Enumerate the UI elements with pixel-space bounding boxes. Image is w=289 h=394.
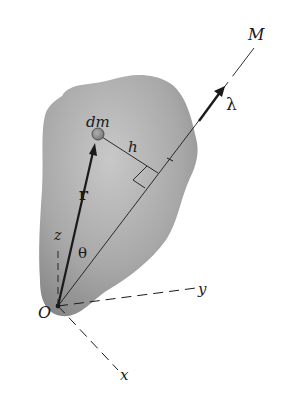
label-x: x — [120, 366, 129, 384]
label-theta: θ — [78, 244, 87, 262]
label-lambda: λ — [226, 94, 237, 114]
label-z: z — [53, 227, 62, 243]
origin-point — [56, 304, 61, 309]
label-y: y — [197, 280, 207, 298]
label-O: O — [38, 303, 51, 322]
inertia-diagram: M λ dm h r θ z y x O — [0, 0, 289, 394]
label-h: h — [128, 138, 138, 156]
label-r: r — [79, 184, 89, 204]
label-dm: dm — [86, 113, 110, 131]
label-M: M — [247, 25, 265, 44]
lambda-unit-vector — [199, 86, 225, 121]
